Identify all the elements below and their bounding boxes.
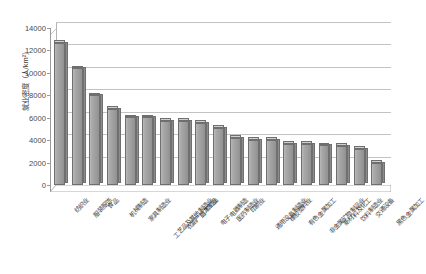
bar-top-face xyxy=(125,115,136,118)
y-axis-tick-label: 8000 xyxy=(8,91,46,100)
bar-front-face xyxy=(354,149,365,185)
bar-front-face xyxy=(248,140,259,185)
bar-column[interactable] xyxy=(213,128,224,185)
bar-top-face xyxy=(54,40,65,43)
x-axis-label: 黑色金属加工 xyxy=(394,196,425,227)
bar-side-face xyxy=(171,120,174,183)
bar-side-face xyxy=(153,116,156,183)
bar-side-face xyxy=(65,42,68,183)
bar-side-face xyxy=(277,139,280,183)
y-axis-tick-label: 0 xyxy=(8,181,46,190)
bar-side-face xyxy=(382,162,385,183)
bar-column[interactable] xyxy=(195,123,206,185)
bar-front-face xyxy=(230,138,241,185)
bar-top-face xyxy=(89,93,100,96)
bar-side-face xyxy=(224,127,227,183)
bar-front-face xyxy=(266,140,277,185)
bar-front-face xyxy=(89,95,100,185)
bar-side-face xyxy=(365,148,368,183)
bar-top-face xyxy=(248,137,259,140)
bar-front-face xyxy=(107,109,118,185)
plot-area xyxy=(50,22,391,192)
bar-front-face xyxy=(125,117,136,185)
bar-column[interactable] xyxy=(248,140,259,185)
bar-column[interactable] xyxy=(72,68,83,185)
bar-top-face xyxy=(319,143,330,146)
bar-column[interactable] xyxy=(319,145,330,185)
bar-column[interactable] xyxy=(89,95,100,185)
bar-column[interactable] xyxy=(178,121,189,185)
bar-side-face xyxy=(100,94,103,183)
bar-column[interactable] xyxy=(371,163,382,185)
y-axis-tick-label: 2000 xyxy=(8,158,46,167)
x-axis-label: 纺织业 xyxy=(72,196,91,215)
bar-front-face xyxy=(72,68,83,185)
bar-side-face xyxy=(189,120,192,183)
bar-column[interactable] xyxy=(125,117,136,185)
bar-top-face xyxy=(213,125,224,128)
bar-front-face xyxy=(160,121,171,185)
bar-top-face xyxy=(142,115,153,118)
bar-column[interactable] xyxy=(107,109,118,185)
bar-column[interactable] xyxy=(142,117,153,185)
x-axis-label: 家具制造业 xyxy=(146,196,173,223)
bar-side-face xyxy=(294,143,297,183)
bar-column[interactable] xyxy=(54,43,65,185)
bar-side-face xyxy=(329,144,332,183)
bar-front-face xyxy=(54,43,65,185)
bar-front-face xyxy=(195,123,206,185)
bar-top-face xyxy=(107,106,118,109)
bar-top-face xyxy=(371,160,382,163)
bar-column[interactable] xyxy=(266,140,277,185)
x-axis-label: 竹木制品 xyxy=(197,196,220,219)
bar-front-face xyxy=(213,128,224,185)
y-axis-tick-label: 14000 xyxy=(8,24,46,33)
bar-column[interactable] xyxy=(283,144,294,185)
bar-top-face xyxy=(195,120,206,123)
bar-column[interactable] xyxy=(160,121,171,185)
bar-top-face xyxy=(72,66,83,69)
bar-front-face xyxy=(178,121,189,185)
bar-top-face xyxy=(354,146,365,149)
bar-side-face xyxy=(241,137,244,183)
y-axis-tick-labels: 02000400060008000100001200014000 xyxy=(8,0,46,274)
bar-column[interactable] xyxy=(230,138,241,185)
bar-column[interactable] xyxy=(301,144,312,185)
bar-front-face xyxy=(142,117,153,185)
bar-top-face xyxy=(301,141,312,144)
y-axis-tick-label: 10000 xyxy=(8,68,46,77)
bar-front-face xyxy=(319,145,330,185)
bar-series xyxy=(50,22,391,192)
bar-front-face xyxy=(301,144,312,185)
bar-side-face xyxy=(83,67,86,183)
bar-top-face xyxy=(160,118,171,121)
bar-side-face xyxy=(347,145,350,183)
bar-side-face xyxy=(206,122,209,183)
bar-front-face xyxy=(336,146,347,185)
bar-side-face xyxy=(118,108,121,183)
bar-top-face xyxy=(178,118,189,121)
y-axis-tick-label: 6000 xyxy=(8,113,46,122)
bar-column[interactable] xyxy=(354,149,365,185)
bar-top-face xyxy=(336,143,347,146)
bar-top-face xyxy=(283,141,294,144)
bar-front-face xyxy=(371,163,382,185)
bar-side-face xyxy=(259,139,262,183)
bar-top-face xyxy=(266,137,277,140)
y-axis-tick-label: 12000 xyxy=(8,46,46,55)
bar-side-face xyxy=(136,116,139,183)
y-axis-tick-label: 4000 xyxy=(8,136,46,145)
bar-side-face xyxy=(312,143,315,183)
bar-top-face xyxy=(230,135,241,138)
x-axis-category-labels: 纺织业服装服饰食品机械制造家具制造业工艺品及其他制造业农副产品加工业竹木制品电子… xyxy=(50,196,395,274)
bar-column[interactable] xyxy=(336,146,347,185)
bar-front-face xyxy=(283,144,294,185)
